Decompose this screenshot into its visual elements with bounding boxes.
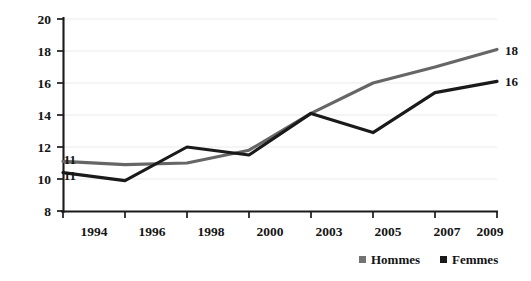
y-tick-label-18: 18 [38, 44, 52, 59]
x-tick-label-1996: 1996 [139, 224, 166, 239]
chart-canvas: 20 18 16 14 12 10 8 1994 1996 1998 2000 … [0, 0, 531, 281]
x-tick-label-2005: 2005 [375, 224, 402, 239]
x-tick-label-2009: 2009 [477, 224, 504, 239]
gridlines [63, 19, 497, 179]
x-tick-label-1994: 1994 [81, 224, 108, 239]
y-tick-label-12: 12 [38, 140, 52, 155]
y-tick-label-10: 10 [38, 172, 52, 187]
x-tick-label-2000: 2000 [257, 224, 284, 239]
legend-label-hommes: Hommes [371, 252, 420, 267]
y-tick-marks [57, 19, 63, 211]
start-label-hommes: 11 [64, 152, 76, 167]
y-tick-label-14: 14 [38, 108, 52, 123]
start-label-femmes: 11 [64, 168, 76, 183]
x-tick-label-2007: 2007 [434, 224, 461, 239]
x-tick-label-1998: 1998 [198, 224, 225, 239]
chart-legend: Hommes Femmes [359, 252, 498, 267]
end-label-femmes: 16 [505, 74, 519, 89]
x-tick-labels: 1994 1996 1998 2000 2003 2005 2007 2009 [81, 224, 504, 239]
y-tick-label-16: 16 [38, 76, 52, 91]
y-tick-labels: 20 18 16 14 12 10 8 [38, 12, 52, 219]
legend-marker-femmes [440, 256, 447, 263]
line-chart: 20 18 16 14 12 10 8 1994 1996 1998 2000 … [0, 0, 531, 281]
legend-marker-hommes [359, 256, 366, 263]
end-label-hommes: 18 [505, 43, 519, 58]
y-tick-label-8: 8 [44, 204, 51, 219]
x-tick-label-2003: 2003 [316, 224, 343, 239]
y-tick-label-20: 20 [38, 12, 52, 27]
legend-label-femmes: Femmes [452, 252, 498, 267]
